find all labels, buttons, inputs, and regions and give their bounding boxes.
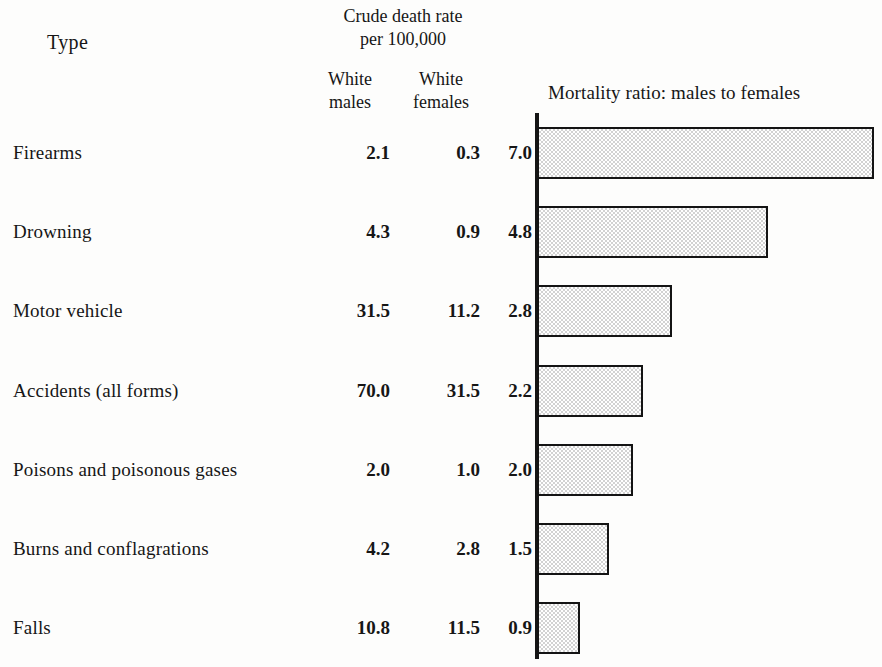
row-label-1: Drowning [13,221,92,243]
chart-title: Mortality ratio: males to females [548,82,800,104]
row-value-white-males-0: 2.1 [310,142,390,164]
bar-6 [537,602,580,654]
row-label-3: Accidents (all forms) [13,380,179,402]
row-value-ratio-0: 7.0 [452,142,532,164]
row-value-white-males-6: 10.8 [310,617,390,639]
crude-heading-line-1: Crude death rate [303,5,503,28]
row-value-white-males-2: 31.5 [310,300,390,322]
row-value-white-males-1: 4.3 [310,221,390,243]
white-females-line-2: females [381,91,501,114]
row-value-ratio-3: 2.2 [452,380,532,402]
column-header-type: Type [47,31,88,54]
chart-page: Type Crude death rate per 100,000 White … [0,0,882,667]
row-value-white-males-5: 4.2 [310,538,390,560]
row-value-white-males-3: 70.0 [310,380,390,402]
row-label-6: Falls [13,617,51,639]
table-row: Firearms2.10.37.0 [0,127,882,179]
row-label-0: Firearms [13,142,82,164]
bar-4 [537,444,633,496]
row-label-2: Motor vehicle [13,300,123,322]
table-row: Poisons and poisonous gases2.01.02.0 [0,444,882,496]
table-row: Accidents (all forms)70.031.52.2 [0,365,882,417]
row-value-white-males-4: 2.0 [310,459,390,481]
bar-3 [537,365,643,417]
row-value-ratio-5: 1.5 [452,538,532,560]
table-row: Falls10.811.50.9 [0,602,882,654]
bar-0 [537,127,874,179]
row-label-4: Poisons and poisonous gases [13,459,237,481]
column-header-white-females: White females [381,68,501,114]
table-row: Motor vehicle31.511.22.8 [0,285,882,337]
bar-1 [537,206,768,258]
row-value-ratio-1: 4.8 [452,221,532,243]
table-row: Burns and conflagrations4.22.81.5 [0,523,882,575]
table-row: Drowning4.30.94.8 [0,206,882,258]
white-females-line-1: White [381,68,501,91]
row-value-ratio-6: 0.9 [452,617,532,639]
column-header-crude-death-rate: Crude death rate per 100,000 [303,5,503,51]
row-value-ratio-2: 2.8 [452,300,532,322]
row-value-ratio-4: 2.0 [452,459,532,481]
bar-2 [537,285,672,337]
crude-heading-line-2: per 100,000 [303,28,503,51]
bar-5 [537,523,609,575]
row-label-5: Burns and conflagrations [13,538,209,560]
